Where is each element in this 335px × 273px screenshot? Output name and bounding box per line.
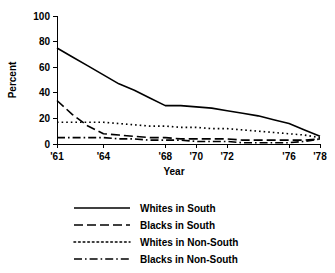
legend-label-1: Blacks in South [140,220,215,231]
legend-label-3: Blacks in Non-South [140,254,238,265]
y-tick-label: 40 [39,87,51,98]
x-tick-label: '61 [50,151,64,162]
chart-background [0,0,335,273]
x-tick-label: '72 [220,151,234,162]
x-tick-label: '78 [313,151,327,162]
y-tick-label: 0 [44,139,50,150]
y-tick-label: 60 [39,62,51,73]
legend-label-0: Whites in South [140,203,216,214]
x-tick-label: '70 [189,151,203,162]
x-tick-label: '76 [282,151,296,162]
y-tick-label: 100 [33,11,50,22]
line-chart: 020406080100 '61'64'68'70'72'76'78 Perce… [0,0,335,273]
chart-figure: 020406080100 '61'64'68'70'72'76'78 Perce… [0,0,335,273]
x-axis-title: Year [163,166,184,177]
y-axis-title: Percent [7,61,18,98]
x-tick-label: '64 [97,151,111,162]
legend-label-2: Whites in Non-South [140,237,238,248]
y-tick-label: 20 [39,113,51,124]
x-tick-label: '68 [159,151,173,162]
y-tick-label: 80 [39,36,51,47]
